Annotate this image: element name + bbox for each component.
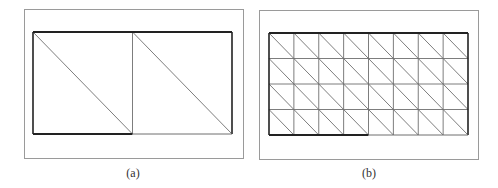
- mesh-diagonal: [443, 84, 468, 110]
- mesh-diagonal: [418, 110, 443, 136]
- mesh-diagonal: [269, 110, 294, 136]
- mesh-diagonal: [393, 59, 418, 85]
- mesh-diagonal: [33, 32, 133, 134]
- mesh-diagonal: [319, 59, 344, 85]
- mesh-diagonal: [294, 59, 319, 85]
- mesh-diagonal: [133, 32, 233, 134]
- mesh-diagonal: [269, 59, 294, 85]
- mesh-diagonal: [319, 84, 344, 110]
- mesh-diagonal: [443, 59, 468, 85]
- mesh-diagonal: [393, 84, 418, 110]
- mesh-diagonal: [418, 59, 443, 85]
- mesh-diagonal: [294, 84, 319, 110]
- mesh-diagonal: [393, 33, 418, 59]
- mesh-diagonal: [294, 110, 319, 136]
- mesh-diagonal: [418, 33, 443, 59]
- mesh-diagonal: [369, 33, 394, 59]
- mesh-diagram: [0, 0, 498, 188]
- caption-b: (b): [349, 166, 389, 181]
- mesh-diagonal: [443, 110, 468, 136]
- mesh-diagonal: [393, 110, 418, 136]
- mesh-diagonal: [369, 110, 394, 136]
- mesh-diagonal: [344, 33, 369, 59]
- mesh-diagonal: [319, 33, 344, 59]
- mesh-diagonal: [418, 84, 443, 110]
- mesh-diagonal: [294, 33, 319, 59]
- mesh-diagonal: [344, 110, 369, 136]
- mesh-diagonal: [269, 33, 294, 59]
- caption-a: (a): [113, 166, 153, 181]
- mesh-diagonal: [443, 33, 468, 59]
- mesh-diagonal: [344, 59, 369, 85]
- mesh-diagonal: [344, 84, 369, 110]
- mesh-diagonal: [269, 84, 294, 110]
- mesh-diagonal: [369, 59, 394, 85]
- mesh-diagonal: [369, 84, 394, 110]
- mesh-diagonal: [319, 110, 344, 136]
